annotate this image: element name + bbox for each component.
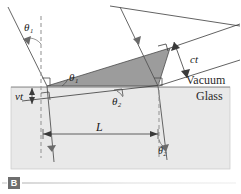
label-ct: ct [190, 53, 199, 65]
label-theta1-wavefront: θ₁ [69, 71, 78, 83]
panel-divider-rule [22, 182, 236, 184]
label-theta2-bottom: θ₂ [158, 145, 167, 156]
label-vt: vt [15, 90, 24, 102]
label-theta2-refracted: θ₂ [112, 95, 121, 107]
refraction-wavefront-diagram: θ₁ θ₁ θ₂ θ₂ ct vt L Vacuum Glass [0, 0, 241, 194]
label-vacuum: Vacuum [186, 73, 226, 87]
panel-rule-left-cap [2, 182, 7, 184]
figure-panel-b: θ₁ θ₁ θ₂ θ₂ ct vt L Vacuum Glass B [0, 0, 241, 194]
label-L: L [95, 120, 103, 134]
panel-label-badge: B [8, 177, 20, 189]
label-theta1-incident: θ₁ [24, 21, 33, 33]
label-glass: Glass [196, 89, 223, 103]
